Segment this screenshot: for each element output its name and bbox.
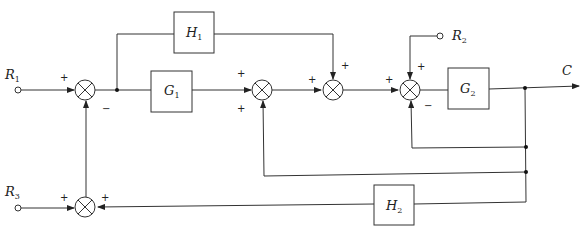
label-r3: R3: [5, 185, 20, 201]
sign-s2-left: +: [237, 69, 245, 79]
label-g1: G1: [164, 84, 179, 100]
label-output-c: C: [562, 64, 572, 77]
branch-node: [524, 145, 528, 149]
sign-s1-bottom: −: [102, 104, 110, 114]
label-h2: H2: [386, 199, 402, 215]
sign-s4-top: +: [417, 62, 425, 72]
summing-junction-s1: [75, 80, 95, 100]
sign-s1-left: +: [60, 73, 68, 83]
sign-s3-top: +: [341, 61, 349, 71]
sign-s4-left: +: [385, 75, 393, 85]
label-h1: H1: [186, 26, 202, 42]
label-g2: G2: [460, 82, 475, 98]
input-terminal-r1: [15, 87, 21, 93]
summing-junction-s3: [323, 80, 343, 100]
branch-node: [115, 88, 119, 92]
sign-s5-right: +: [101, 193, 109, 203]
label-r2: R2: [452, 29, 467, 45]
sign-s4-bottom: −: [424, 101, 432, 111]
sign-s5-left: +: [60, 193, 68, 203]
summing-junction-s4: [400, 80, 420, 100]
summing-junction-s2: [252, 80, 272, 100]
branch-node: [524, 170, 528, 174]
input-terminal-r2: [437, 33, 443, 39]
label-r1: R1: [5, 68, 20, 84]
summing-junction-s5: [75, 197, 95, 217]
block-diagram-canvas: [0, 0, 582, 227]
sign-s2-bottom: +: [237, 104, 245, 114]
input-terminal-r3: [15, 205, 21, 211]
branch-node: [523, 86, 527, 90]
sign-s3-left: +: [308, 75, 316, 85]
